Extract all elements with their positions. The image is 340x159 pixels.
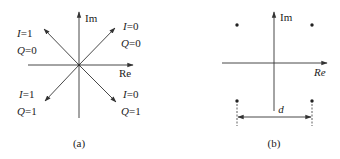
constellation-point-upper-left [235,23,238,26]
svg-text:I=1: I=1 [18,88,34,100]
svg-text:I=0: I=0 [122,20,139,32]
constellation-point-lower-left [235,99,238,102]
svg-text:Q=1: Q=1 [121,105,141,117]
constellation-point-upper-right [310,23,313,26]
label-upper-right: I=0 Q=0 [121,20,141,49]
svg-text:Q=1: Q=1 [17,105,37,117]
real-axis-label: Re [313,66,326,78]
label-upper-left: I=1 Q=0 [16,27,37,56]
distance-label: d [278,103,284,115]
phasor-arrow-upper-right [79,28,115,65]
label-lower-left: I=1 Q=1 [17,88,37,117]
caption-a: (a) [73,137,86,150]
constellation-point-lower-right [310,99,313,102]
phasor-arrow-upper-left [44,29,79,65]
qpsk-diagram: Im Re I=1 Q=0 I=0 Q=0 I=1 Q=1 I=0 Q=1 (a… [0,0,340,159]
label-lower-right: I=0 Q=1 [121,88,141,117]
imag-axis-label: Im [280,11,293,23]
svg-text:I=0: I=0 [122,88,139,100]
origin-dot [78,64,81,67]
panel-a: Im Re I=1 Q=0 I=0 Q=0 I=1 Q=1 I=0 Q=1 (a… [16,12,141,150]
caption-b: (b) [268,137,281,150]
svg-text:Q=0: Q=0 [121,37,141,49]
panel-b: Im Re d (b) [222,11,327,150]
svg-text:I=1: I=1 [16,27,32,39]
imag-axis-label: Im [85,12,98,24]
phasor-arrow-lower-left [45,65,79,101]
real-axis-label: Re [119,67,131,79]
svg-text:Q=0: Q=0 [17,44,37,56]
phasor-arrow-lower-right [79,65,116,102]
